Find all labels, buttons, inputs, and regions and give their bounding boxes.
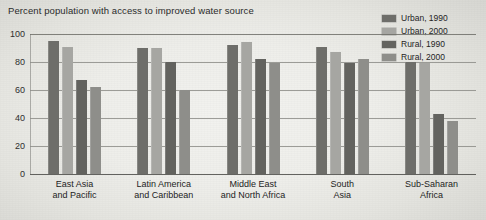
- x-axis-category-line: East Asia: [53, 179, 97, 190]
- bar: [269, 63, 280, 174]
- bar: [90, 87, 101, 174]
- y-tick-label: 60: [15, 85, 25, 95]
- bar: [62, 47, 73, 174]
- bar-group-5: Sub-SaharanAfrica: [387, 34, 476, 174]
- x-axis-category-line: Asia: [330, 190, 354, 201]
- bar: [330, 52, 341, 174]
- x-axis-category-line: and Caribbean: [134, 190, 193, 201]
- x-axis-category-label: Sub-SaharanAfrica: [405, 179, 458, 201]
- bar: [433, 114, 444, 174]
- bar-groups: East Asiaand PacificLatin Americaand Car…: [30, 34, 476, 174]
- y-tick-label: 100: [10, 29, 25, 39]
- gridline-0: [30, 174, 476, 175]
- bar-group-1: East Asiaand Pacific: [30, 34, 119, 174]
- x-axis-category-line: and Pacific: [53, 190, 97, 201]
- bar: [447, 121, 458, 174]
- x-axis-category-label: East Asiaand Pacific: [53, 179, 97, 201]
- x-axis-category-line: Middle East: [221, 179, 286, 190]
- x-axis-category-label: Latin Americaand Caribbean: [134, 179, 193, 201]
- bar: [48, 41, 59, 174]
- y-tick-label: 20: [15, 141, 25, 151]
- bar-group-2: Latin Americaand Caribbean: [119, 34, 208, 174]
- bar: [316, 47, 327, 174]
- bar: [255, 59, 266, 174]
- x-axis-category-label: Middle Eastand North Africa: [221, 179, 286, 201]
- bar: [344, 63, 355, 174]
- bar: [358, 59, 369, 174]
- legend-swatch-icon: [382, 15, 396, 22]
- chart-title: Percent population with access to improv…: [8, 5, 254, 16]
- bar: [165, 62, 176, 174]
- x-axis-category-line: Africa: [405, 190, 458, 201]
- x-axis-category-line: South: [330, 179, 354, 190]
- bar: [76, 80, 87, 174]
- x-axis-category-line: and North Africa: [221, 190, 286, 201]
- y-tick-label: 0: [20, 169, 25, 179]
- bar: [419, 63, 430, 174]
- y-tick-label: 40: [15, 113, 25, 123]
- bar: [241, 42, 252, 174]
- bar: [405, 62, 416, 174]
- bar: [227, 45, 238, 174]
- bar: [137, 48, 148, 174]
- x-axis-category-line: Latin America: [134, 179, 193, 190]
- bar-group-3: Middle Eastand North Africa: [208, 34, 297, 174]
- x-axis-category-line: Sub-Saharan: [405, 179, 458, 190]
- bar-group-4: SouthAsia: [298, 34, 387, 174]
- x-axis-category-label: SouthAsia: [330, 179, 354, 201]
- bar: [151, 48, 162, 174]
- chart-screenshot: Percent population with access to improv…: [0, 0, 486, 220]
- plot-area: 100806040200 East Asiaand PacificLatin A…: [30, 34, 476, 174]
- bar: [179, 90, 190, 174]
- legend-item-1: Urban, 1990: [382, 12, 480, 24]
- y-tick-label: 80: [15, 57, 25, 67]
- legend-item-label: Urban, 1990: [401, 13, 448, 23]
